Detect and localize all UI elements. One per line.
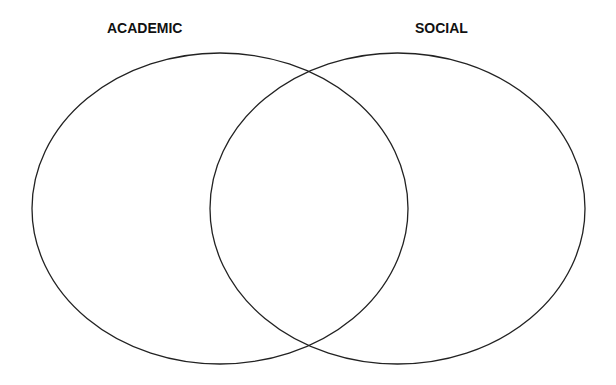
venn-canvas (0, 0, 616, 385)
social-ellipse (210, 53, 585, 364)
academic-ellipse (32, 53, 408, 364)
